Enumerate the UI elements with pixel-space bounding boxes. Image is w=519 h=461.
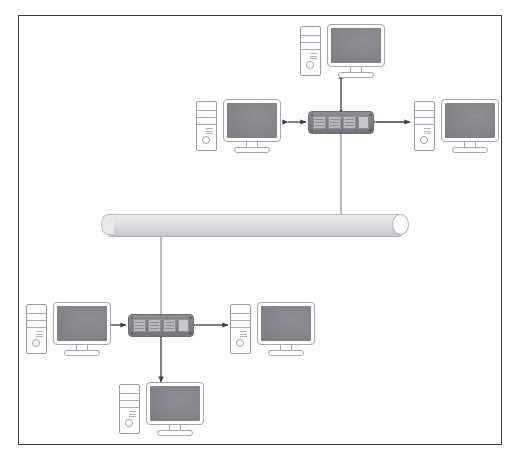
vent-icon [129,411,136,417]
vent-icon [36,331,43,337]
switch-top[interactable] [308,111,374,134]
power-button-icon [420,136,428,144]
vent-icon [310,53,317,59]
monitor-screen [445,103,495,138]
power-button-icon [202,136,210,144]
clipped-header-text: ·· · ·· [34,0,75,4]
vent-icon [424,128,431,134]
power-button-icon [306,61,314,69]
monitor-screen [331,28,381,63]
monitor-screen [261,306,311,341]
power-button-icon [236,339,244,347]
monitor-screen [227,103,277,138]
switch-ports [133,319,176,332]
computer-tower [230,304,251,354]
monitor-screen [150,386,200,421]
power-button-icon [32,339,40,347]
computer-tower [300,26,321,76]
bus-cap-right [392,214,409,235]
vent-icon [206,128,213,134]
bus-body [107,214,403,237]
switch-status-panel [178,319,189,332]
computer-tower [119,384,140,434]
vent-icon [240,331,247,337]
switch-bottom[interactable] [128,314,194,337]
switch-ports [313,116,356,129]
computer-tower [414,101,435,151]
computer-tower [196,101,217,151]
bus-cap-left [101,214,114,235]
diagram-page: ·· · ·· [0,0,519,461]
backbone-bus[interactable] [101,214,409,235]
switch-status-panel [358,116,369,129]
power-button-icon [125,419,133,427]
computer-tower [26,304,47,354]
monitor-screen [57,306,107,341]
